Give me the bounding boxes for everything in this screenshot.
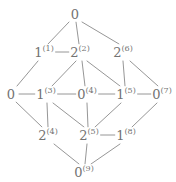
edge-n4b-n9 [54, 144, 79, 164]
node-n9: 0(9) [73, 165, 95, 180]
node-n4b: 2(4) [37, 128, 59, 143]
node-n1: 1(1) [33, 45, 55, 60]
edge-n2-n3 [52, 61, 76, 86]
edge-n2-n5 [87, 61, 120, 86]
edge-n2-n4 [82, 61, 85, 86]
edge-n3-n4b [47, 103, 48, 127]
edge-n7-n8 [132, 103, 157, 127]
node-n2: 2(2) [69, 45, 91, 60]
edge-n0-n1 [48, 22, 69, 44]
edge-n3-n5b [53, 103, 84, 127]
hasse-diagram: 01(1)2(2)2(6)01(3)0(4)1(5)0(7)2(4)2(5)1(… [0, 0, 176, 182]
edge-n1-nL [17, 61, 38, 86]
node-superscript-label: (4) [46, 127, 57, 136]
node-n8: 1(8) [115, 128, 137, 143]
node-superscript-label: (7) [160, 86, 171, 95]
node-superscript-label: (5) [87, 127, 98, 136]
node-superscript-label: (5) [124, 86, 135, 95]
node-n7: 0(7) [151, 87, 173, 102]
node-n4: 0(4) [76, 87, 98, 102]
edge-n5-n5b [95, 103, 121, 127]
edge-n6-n7 [130, 61, 158, 86]
node-n3: 1(3) [35, 87, 57, 102]
edge-n4-n5b [87, 103, 88, 127]
edge-nL-n4b [16, 102, 42, 127]
edge-n0-n2 [76, 22, 79, 44]
edge-n0-n6 [82, 22, 119, 44]
node-n0: 0 [70, 7, 80, 22]
node-superscript-label: (6) [121, 44, 132, 53]
node-base-label: 0 [71, 7, 79, 22]
edge-n5b-n9 [85, 144, 87, 164]
node-n5b: 2(5) [78, 128, 100, 143]
node-n6: 2(6) [112, 45, 134, 60]
node-base-label: 0 [7, 87, 15, 102]
node-superscript-label: (9) [82, 164, 93, 173]
node-superscript-label: (2) [78, 44, 89, 53]
edge-n6-n5 [123, 61, 125, 86]
node-superscript-label: (4) [85, 86, 96, 95]
node-nL: 0 [6, 87, 16, 102]
node-n5: 1(5) [115, 87, 137, 102]
node-superscript-label: (8) [124, 127, 135, 136]
node-superscript-label: (1) [42, 44, 53, 53]
edge-n8-n9 [91, 144, 120, 164]
node-superscript-label: (3) [44, 86, 55, 95]
